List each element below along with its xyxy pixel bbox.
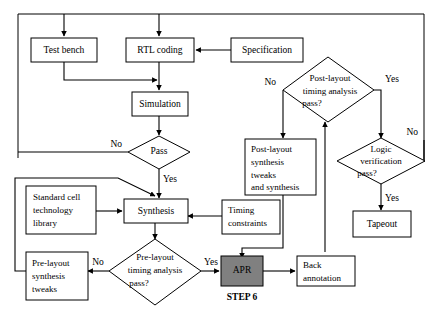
node-pass-decision[interactable]: Pass: [128, 136, 190, 169]
node-specification[interactable]: Specification: [231, 38, 303, 62]
node-postlayout-timing-line1: Post-layout: [309, 73, 351, 83]
step-6-label: STEP 6: [227, 292, 258, 302]
edge-label-postlayout-yes: Yes: [385, 74, 399, 84]
edge-label-logic-no: No: [406, 127, 418, 137]
node-library-line1: Standard cell: [33, 192, 81, 202]
node-logic-verif-line1: Logic: [371, 144, 392, 154]
edge-label-postlayout-no: No: [264, 77, 276, 87]
edge-postlayout-yes-to-logic-verification: [374, 90, 381, 138]
edge-label-prelayout-no: No: [92, 257, 104, 267]
node-back-annotation-line2: annotation: [303, 273, 341, 283]
node-synthesis[interactable]: Synthesis: [124, 199, 188, 223]
edge-label-logic-yes: Yes: [385, 193, 399, 203]
node-postlayout-synth-line1: Post-layout: [251, 144, 293, 154]
node-test-bench[interactable]: Test bench: [31, 38, 97, 62]
node-apr-label: APR: [233, 265, 252, 275]
node-postlayout-synth-line3: tweaks: [251, 170, 276, 180]
node-prelayout-tweaks-line2: synthesis: [32, 271, 66, 281]
node-timing-constraints-line1: Timing: [228, 205, 255, 215]
node-prelayout-tweaks-line1: Pre-layout: [32, 258, 70, 268]
node-apr[interactable]: APR: [221, 256, 263, 286]
node-simulation-label: Simulation: [139, 99, 181, 109]
node-postlayout-timing-line2: timing analysis: [303, 86, 358, 96]
node-logic-verif-line3: pass?: [357, 168, 377, 178]
node-synthesis-label: Synthesis: [138, 206, 175, 216]
edge-test-bench-to-simulation: [64, 62, 157, 80]
node-postlayout-timing-decision[interactable]: Post-layout timing analysis pass?: [283, 57, 374, 122]
node-back-annotation[interactable]: Back annotation: [297, 256, 355, 286]
node-pass-label: Pass: [151, 146, 168, 156]
node-postlayout-synthesis[interactable]: Post-layout synthesis tweaks and synthes…: [245, 139, 316, 195]
node-postlayout-synth-line4: and synthesis: [251, 182, 300, 192]
node-postlayout-synth-line2: synthesis: [251, 157, 285, 167]
node-tapeout-label: Tapeout: [367, 219, 398, 229]
node-simulation[interactable]: Simulation: [132, 92, 188, 116]
node-prelayout-timing-decision[interactable]: Pre-layout timing analysis pass?: [109, 239, 201, 305]
flowchart-canvas: Test bench RTL coding Specification Simu…: [0, 0, 433, 313]
asic-design-flowchart: Test bench RTL coding Specification Simu…: [0, 0, 433, 313]
node-prelayout-timing-line2: timing analysis: [128, 265, 183, 275]
edge-label-pass-yes: Yes: [163, 174, 177, 184]
node-standard-cell-library[interactable]: Standard cell technology library: [26, 186, 96, 234]
node-back-annotation-line1: Back: [303, 260, 322, 270]
node-library-line3: library: [33, 218, 57, 228]
node-logic-verification-decision[interactable]: Logic verification pass?: [337, 138, 425, 184]
node-library-line2: technology: [33, 205, 73, 215]
node-tapeout[interactable]: Tapeout: [353, 211, 411, 237]
node-specification-label: Specification: [242, 45, 292, 55]
node-prelayout-synthesis-tweaks[interactable]: Pre-layout synthesis tweaks: [26, 252, 88, 300]
node-timing-constraints-line2: constraints: [228, 218, 267, 228]
node-prelayout-timing-line3: pass?: [129, 278, 149, 288]
node-timing-constraints[interactable]: Timing constraints: [222, 200, 280, 234]
node-prelayout-timing-line1: Pre-layout: [136, 252, 174, 262]
node-prelayout-tweaks-line3: tweaks: [32, 284, 57, 294]
edge-label-pass-no: No: [110, 139, 122, 149]
node-postlayout-timing-line3: pass?: [302, 98, 322, 108]
node-rtl-coding[interactable]: RTL coding: [126, 38, 194, 62]
node-rtl-coding-label: RTL coding: [137, 45, 183, 55]
node-test-bench-label: Test bench: [44, 45, 85, 55]
edge-label-prelayout-yes: Yes: [204, 257, 218, 267]
node-logic-verif-line2: verification: [360, 156, 402, 166]
